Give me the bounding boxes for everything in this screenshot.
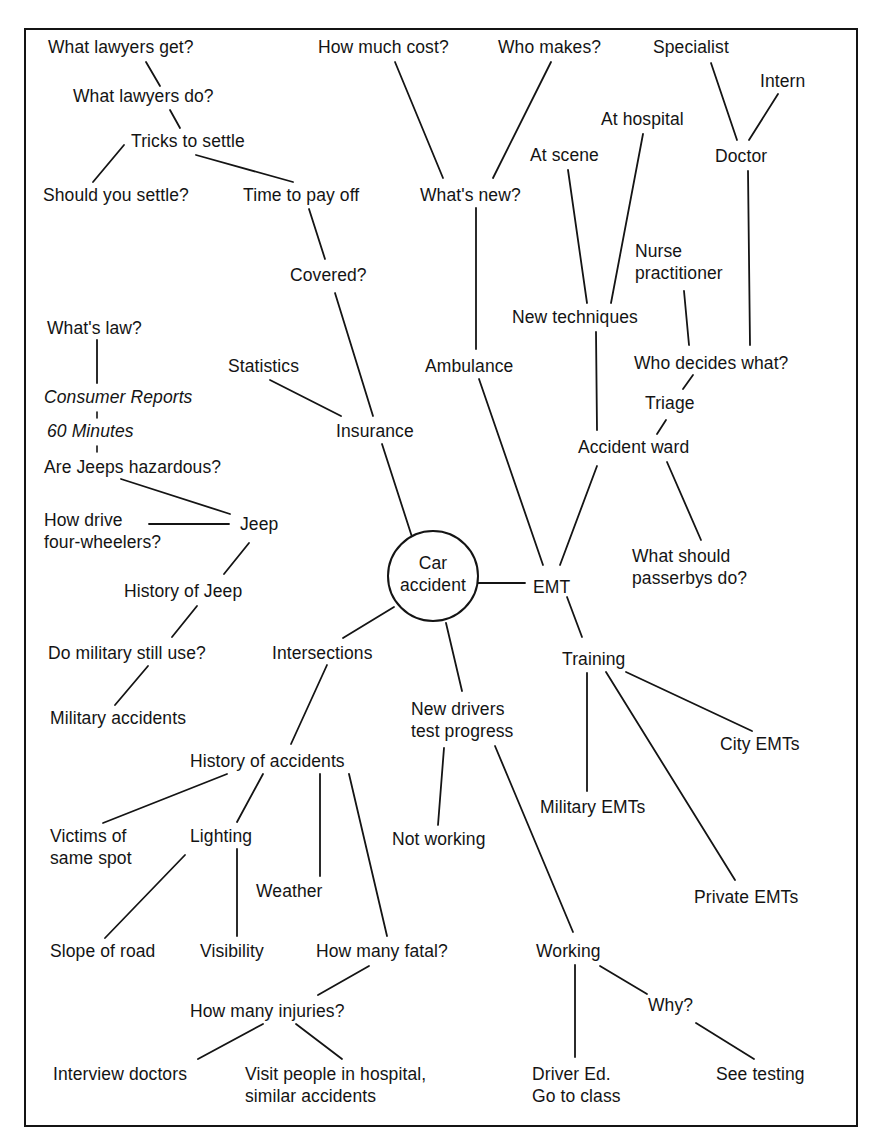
node-intern: Intern: [760, 70, 805, 92]
edge-training-to-private-emts: [606, 672, 735, 880]
node-new-techniques: New techniques: [512, 306, 638, 328]
node-nurse-practitioner: Nurse practitioner: [635, 240, 723, 284]
edge-new-drivers-test-progress-to-working: [495, 746, 573, 932]
edge-why-to-see-testing: [696, 1023, 754, 1059]
node-military-accidents: Military accidents: [50, 707, 186, 729]
edge-who-decides-what-to-triage: [683, 375, 693, 389]
node-doctor: Doctor: [715, 145, 767, 167]
node-at-scene: At scene: [530, 144, 599, 166]
edge-how-many-fatal-to-how-many-injuries: [318, 966, 369, 995]
node-how-much-cost: How much cost?: [318, 36, 449, 58]
edge-insurance-to-statistics: [270, 380, 341, 416]
edge-intern-to-doctor: [749, 94, 778, 140]
edge-do-military-still-use-to-military-accidents: [115, 666, 148, 705]
edge-history-of-accidents-to-how-many-fatal: [349, 774, 387, 936]
node-covered: Covered?: [290, 264, 367, 286]
node-accident-ward: Accident ward: [578, 436, 689, 458]
edge-how-many-injuries-to-interview-doctors: [198, 1024, 263, 1059]
node-training: Training: [562, 648, 625, 670]
edge-specialist-to-doctor: [711, 63, 737, 140]
node-tricks-to-settle: Tricks to settle: [131, 130, 245, 152]
node-what-should-passerbys-do: What should passerbys do?: [632, 545, 747, 589]
node-sixty-minutes: 60 Minutes: [47, 420, 134, 442]
central-node-label: Car accident: [393, 552, 473, 596]
node-should-you-settle: Should you settle?: [43, 184, 189, 206]
node-victims-of-same-spot: Victims of same spot: [50, 825, 132, 869]
edge-emt-to-training: [567, 597, 582, 637]
node-who-decides-what: Who decides what?: [634, 352, 788, 374]
node-interview-doctors: Interview doctors: [53, 1063, 187, 1085]
node-how-drive-four-wheelers: How drive four-wheelers?: [44, 509, 161, 553]
node-history-of-accidents: History of accidents: [190, 750, 345, 772]
node-visit-people-in-hospital: Visit people in hospital, similar accide…: [245, 1063, 426, 1107]
edge-history-of-accidents-to-lighting: [237, 774, 263, 822]
edge-insurance-to-car-accident: [382, 444, 413, 540]
edge-new-drivers-test-progress-to-not-working: [438, 748, 444, 825]
edge-intersections-to-history-of-accidents: [291, 665, 327, 744]
node-who-makes: Who makes?: [498, 36, 601, 58]
node-not-working: Not working: [392, 828, 486, 850]
edge-training-to-city-emts: [626, 672, 752, 731]
node-lighting: Lighting: [190, 825, 252, 847]
node-do-military-still-use: Do military still use?: [48, 642, 206, 664]
edge-car-accident-to-new-drivers-test-progress: [446, 623, 462, 691]
node-consumer-reports: Consumer Reports: [44, 386, 192, 408]
node-intersections: Intersections: [272, 642, 373, 664]
node-what-lawyers-get: What lawyers get?: [48, 36, 194, 58]
edge-what-lawyers-do-to-tricks-to-settle: [170, 110, 180, 128]
node-city-emts: City EMTs: [720, 733, 800, 755]
node-new-drivers-test-progress: New drivers test progress: [411, 698, 513, 742]
node-time-to-pay-off: Time to pay off: [243, 184, 359, 206]
edge-how-many-injuries-to-visit-people-in-hospital: [296, 1024, 342, 1059]
edge-what-lawyers-get-to-what-lawyers-do: [146, 62, 160, 86]
node-how-many-injuries: How many injuries?: [190, 1000, 345, 1022]
edge-working-to-why: [600, 966, 647, 994]
node-working: Working: [536, 940, 601, 962]
edge-time-to-pay-off-to-covered: [309, 209, 325, 259]
node-how-many-fatal: How many fatal?: [316, 940, 448, 962]
edge-at-scene-to-new-techniques: [568, 170, 587, 303]
node-whats-law: What's law?: [47, 317, 142, 339]
edge-accident-ward-to-what-should-passerbys-do: [667, 462, 701, 540]
edge-doctor-to-who-decides-what: [748, 171, 750, 345]
edge-covered-to-insurance: [335, 293, 373, 416]
node-specialist: Specialist: [653, 36, 729, 58]
node-emt: EMT: [533, 576, 570, 598]
node-are-jeeps-hazardous: Are Jeeps hazardous?: [44, 456, 221, 478]
node-history-of-jeep: History of Jeep: [124, 580, 242, 602]
edge-history-of-jeep-to-do-military-still-use: [172, 606, 197, 637]
edge-ambulance-to-emt: [479, 379, 543, 565]
node-whats-new: What's new?: [420, 184, 521, 206]
edge-accident-ward-to-emt: [560, 466, 597, 565]
node-driver-ed: Driver Ed. Go to class: [532, 1063, 621, 1107]
edge-how-much-cost-to-whats-new: [395, 62, 443, 178]
node-triage: Triage: [645, 392, 695, 414]
node-slope-of-road: Slope of road: [50, 940, 155, 962]
node-see-testing: See testing: [716, 1063, 805, 1085]
node-statistics: Statistics: [228, 355, 299, 377]
edge-car-accident-to-intersections: [343, 607, 394, 638]
edge-new-techniques-to-accident-ward: [596, 332, 597, 430]
edge-nurse-practitioner-to-who-decides-what: [684, 291, 689, 345]
edge-tricks-to-settle-to-should-you-settle: [93, 145, 124, 182]
edge-triage-to-accident-ward: [657, 420, 666, 434]
node-at-hospital: At hospital: [601, 108, 684, 130]
node-what-lawyers-do: What lawyers do?: [73, 85, 214, 107]
edge-tricks-to-settle-to-time-to-pay-off: [196, 155, 293, 182]
edge-history-of-accidents-to-victims-of-same-spot: [103, 774, 227, 823]
node-weather: Weather: [256, 880, 323, 902]
node-jeep: Jeep: [240, 513, 278, 535]
node-ambulance: Ambulance: [425, 355, 513, 377]
edge-jeep-to-history-of-jeep: [224, 543, 249, 574]
node-private-emts: Private EMTs: [694, 886, 798, 908]
node-why: Why?: [648, 994, 693, 1016]
node-visibility: Visibility: [200, 940, 264, 962]
node-insurance: Insurance: [336, 420, 414, 442]
node-military-emts: Military EMTs: [540, 796, 645, 818]
